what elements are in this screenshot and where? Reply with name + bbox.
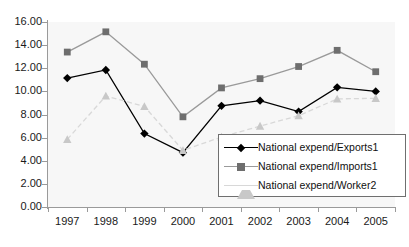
series-lines-layer <box>0 0 409 247</box>
data-point-marker <box>140 129 148 137</box>
legend: National expend/Exports1National expend/… <box>218 134 406 197</box>
legend-label: National expend/Exports1 <box>258 142 378 153</box>
legend-item[interactable]: National expend/Worker2 <box>224 176 404 195</box>
data-point-marker <box>102 28 109 35</box>
data-point-marker <box>102 66 110 74</box>
x-axis-tick <box>395 207 396 212</box>
legend-label: National expend/Worker2 <box>258 180 376 191</box>
data-point-marker <box>63 74 71 82</box>
data-point-marker <box>180 113 187 120</box>
data-point-marker <box>102 92 110 100</box>
legend-marker-triangle-icon <box>224 179 258 193</box>
y-axis-tick <box>42 91 48 92</box>
x-axis-tick <box>48 207 49 212</box>
data-point-marker <box>295 63 302 70</box>
y-axis-tick <box>42 45 48 46</box>
x-axis-tick <box>87 207 88 212</box>
x-axis-tick <box>241 207 242 212</box>
legend-marker-diamond-icon <box>224 141 258 155</box>
data-point-marker <box>218 85 225 92</box>
legend-item[interactable]: National expend/Exports1 <box>224 138 404 157</box>
legend-label: National expend/Imports1 <box>258 161 378 172</box>
y-axis-tick <box>42 138 48 139</box>
y-axis-tick <box>42 68 48 69</box>
y-axis-tick <box>42 184 48 185</box>
chart-figure: 0.002.004.006.008.0010.0012.0014.0016.00… <box>0 0 409 247</box>
x-axis-tick <box>125 207 126 212</box>
data-point-marker <box>141 61 148 68</box>
x-axis-tick <box>356 207 357 212</box>
data-point-marker <box>256 96 264 104</box>
x-axis-tick <box>164 207 165 212</box>
legend-marker-square-icon <box>224 160 258 174</box>
x-axis-tick <box>279 207 280 212</box>
data-point-marker <box>140 102 148 110</box>
data-point-marker <box>257 75 264 82</box>
y-axis-tick <box>42 115 48 116</box>
y-axis-tick <box>42 22 48 23</box>
data-point-marker <box>372 68 379 75</box>
legend-item[interactable]: National expend/Imports1 <box>224 157 404 176</box>
data-point-marker <box>333 83 341 91</box>
data-point-marker <box>64 49 71 56</box>
y-axis-tick <box>42 161 48 162</box>
x-axis-tick <box>202 207 203 212</box>
data-point-marker <box>334 47 341 54</box>
x-axis-tick <box>318 207 319 212</box>
